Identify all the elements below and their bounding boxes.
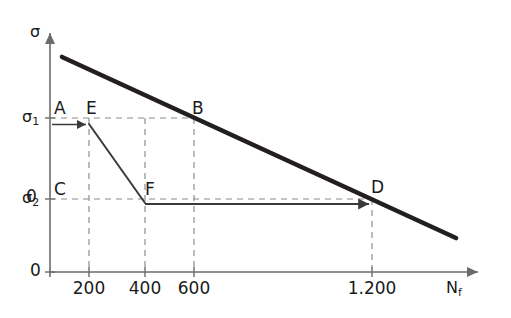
tick-marks-group [45,118,372,277]
y-tick-label-sigma1-text: σ [22,107,32,126]
x-tick-label-600: 600 [174,280,214,297]
x-axis-label-subscript: f [458,286,462,299]
point-label-d: D [371,179,384,196]
x-tick-label-1200: 1.200 [340,280,404,297]
y-axis-label: σ [30,24,40,40]
y-tick-label-sigma2-subscript: 2 [32,196,39,209]
sn-curve [62,57,456,238]
point-label-f: F [145,181,155,198]
x-axis-label: Nf [446,280,462,296]
x-axis-label-text: N [446,278,458,297]
sn-curve-diagram [0,0,511,318]
point-label-a: A [54,100,66,117]
y-tick-label-sigma1-subscript: 1 [32,115,39,128]
point-label-e: E [86,100,97,117]
point-label-b: B [192,100,204,117]
guide-lines-group [50,118,374,270]
origin-label: 0 [30,262,41,279]
y-tick-label-sigma2-text: σ [22,188,32,207]
y-tick-label-sigma2: σ2 [22,190,39,206]
axes-group [50,33,478,277]
figure-canvas: σ Nf 0 σ1 σ2 0 200 400 600 1.200 A E B C… [0,0,511,318]
point-label-c: C [54,181,66,198]
x-tick-label-400: 400 [125,280,165,297]
segment-e-to-f [89,124,145,203]
x-tick-label-200: 200 [69,280,109,297]
y-tick-label-sigma1: σ1 [22,109,39,125]
